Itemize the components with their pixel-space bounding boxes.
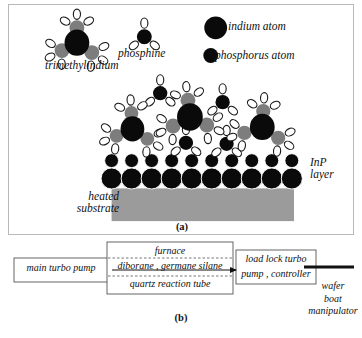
methyl-group-c0-m0 <box>113 95 148 120</box>
inp-indium-atom-3 <box>161 168 182 189</box>
phosphorus-atom-s1 <box>215 95 229 109</box>
hydrogen-atom-g1-h0 <box>141 18 148 28</box>
panel-a: trimethylindium phosphine indium atom ph… <box>8 4 354 235</box>
phosphine-molecule-s1 <box>206 84 239 117</box>
inp-indium-atom-0 <box>101 168 122 189</box>
hydrogen-atom-g0-m0-1 <box>73 9 80 19</box>
inp-phosphorus-atom-3 <box>165 154 179 168</box>
inp-indium-atom-1 <box>121 168 142 189</box>
legend-indium-circle <box>204 16 227 39</box>
trimethylindium-label: trimethylindium <box>45 60 118 72</box>
hydrogen-atom-c2-m1-0 <box>237 140 246 152</box>
methyl-group-c0-m1 <box>98 122 123 154</box>
hydrogen-atom-c0-m2-2 <box>143 147 151 158</box>
inp-layer-lattice <box>101 154 302 189</box>
hydrogen-atom-c2-m2-1 <box>283 140 296 152</box>
hydrogen-atom-c2-m0-2 <box>269 100 281 111</box>
legend-indium-label: indium atom <box>228 21 286 33</box>
phosphorus-atom-g1 <box>137 29 152 44</box>
hydrogen-atom-c0-m0-1 <box>127 95 135 106</box>
inp-indium-atom-2 <box>141 168 162 189</box>
trimethylindium-molecule-c2 <box>226 92 296 156</box>
hydrogen-atom-c1-m0-2 <box>193 86 206 98</box>
panel-b-caption: (b) <box>8 312 354 323</box>
inp-indium-atom-8 <box>261 168 282 189</box>
inp-phosphorus-atom-1 <box>125 154 139 168</box>
phosphine-label: phosphine <box>118 48 165 60</box>
hydrogen-atom-c0-m0-0 <box>113 102 125 113</box>
indium-atom-c2 <box>250 114 275 140</box>
hydrogen-atom-g0-m0-0 <box>59 15 71 26</box>
inp-indium-atom-9 <box>281 168 302 189</box>
hydrogen-atom-c0-m1-0 <box>111 143 119 154</box>
furnace-label: furnace <box>108 245 232 257</box>
inp-phosphorus-atom-9 <box>285 154 299 168</box>
hydrogen-atom-s0-h0 <box>157 75 164 85</box>
surface-cluster <box>98 75 296 159</box>
inp-indium-atom-4 <box>181 168 202 189</box>
indium-atom-c1 <box>177 103 203 130</box>
panel-b: main turbo pump furnace diborane , germa… <box>8 240 354 334</box>
heated-substrate-label: heated substrate <box>47 191 119 214</box>
inp-indium-atom-7 <box>241 168 262 189</box>
indium-atom-c0 <box>121 116 145 141</box>
phosphorus-atom-s2 <box>179 136 193 150</box>
inp-phosphorus-atom-7 <box>245 154 259 168</box>
figure-root: trimethylindium phosphine indium atom ph… <box>0 0 362 338</box>
hydrogen-atom-c2-m2-0 <box>284 127 296 138</box>
hydrogen-atom-c1-m0-1 <box>182 81 190 92</box>
inp-indium-atom-5 <box>201 168 222 189</box>
hydrogen-atom-c1-m2-2 <box>204 133 212 144</box>
indium-atom-g0 <box>65 30 90 56</box>
hydrogen-atom-s1-h2 <box>227 105 239 117</box>
hydrogen-atom-g0-m1-2 <box>44 38 57 50</box>
load-lock-turbo-pump-label: load lock turbo pump , controller <box>238 252 314 281</box>
inp-layer-label: InP layer <box>310 157 334 180</box>
hydrogen-atom-c0-m1-1 <box>98 136 110 147</box>
hydrogen-atom-c2-m0-1 <box>260 92 268 103</box>
gas-line-label: diborane , germane silane <box>104 260 236 272</box>
hydrogen-atom-g0-m2-0 <box>98 41 110 52</box>
legend-phosphorus-label: phosphorus atom <box>215 50 295 62</box>
hydrogen-atom-c1-m1-2 <box>155 113 168 125</box>
phosphorus-atom-s0 <box>153 86 167 100</box>
main-turbo-pump-label: main turbo pump <box>18 262 104 274</box>
hydrogen-atom-c2-m2-2 <box>273 146 281 157</box>
methyl-group-c2-m2 <box>271 127 296 157</box>
hydrogen-atom-c2-m0-0 <box>246 98 259 110</box>
hydrogen-atom-c0-m1-2 <box>100 122 113 134</box>
hydrogen-atom-g0-m0-2 <box>82 15 94 26</box>
hydrogen-atom-s1-h0 <box>219 84 226 94</box>
inp-indium-atom-6 <box>221 168 242 189</box>
panel-a-caption: (a) <box>9 221 355 232</box>
hydrogen-atom-c1-m1-0 <box>169 134 176 145</box>
trimethylindium-molecule-c0 <box>98 95 165 158</box>
heated-substrate-block <box>112 188 294 221</box>
inp-phosphorus-atom-0 <box>105 154 119 168</box>
methyl-carbon-c2-m1 <box>237 126 251 140</box>
hydrogen-atom-c0-m2-1 <box>152 140 165 152</box>
quartz-reaction-tube-label: quartz reaction tube <box>108 278 232 290</box>
